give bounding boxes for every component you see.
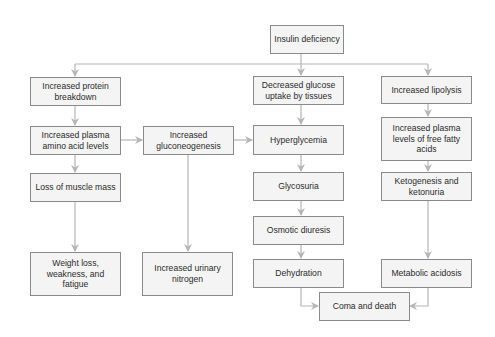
node-lipolysis: Increased lipolysis: [381, 76, 472, 104]
node-ketogenesis: Ketogenesis and ketonuria: [381, 172, 472, 201]
node-plasma-amino-acids: Increased plasma amino acid levels: [30, 126, 121, 155]
node-metabolic-acidosis: Metabolic acidosis: [381, 259, 472, 288]
node-free-fatty-acids: Increased plasma levels of free fatty ac…: [381, 117, 472, 161]
node-muscle-loss: Loss of muscle mass: [30, 173, 121, 202]
node-glucose-uptake: Decreased glucose uptake by tissues: [253, 76, 344, 105]
node-protein-breakdown: Increased protein breakdown: [30, 77, 121, 106]
node-hyperglycemia: Hyperglycemia: [253, 125, 344, 155]
node-urinary-nitrogen: Increased urinary nitrogen: [142, 252, 233, 296]
node-dehydration: Dehydration: [253, 259, 344, 288]
node-osmotic-diuresis: Osmotic diuresis: [253, 216, 344, 245]
node-insulin-deficiency: Insulin deficiency: [270, 25, 344, 54]
flowchart-insulin-deficiency: Insulin deficiency Increased protein bre…: [0, 0, 495, 337]
node-coma-death: Coma and death: [319, 292, 410, 321]
node-weight-loss: Weight loss, weakness, and fatigue: [30, 252, 121, 296]
node-glycosuria: Glycosuria: [253, 172, 344, 201]
node-gluconeogenesis: Increased gluconeogenesis: [143, 126, 234, 155]
